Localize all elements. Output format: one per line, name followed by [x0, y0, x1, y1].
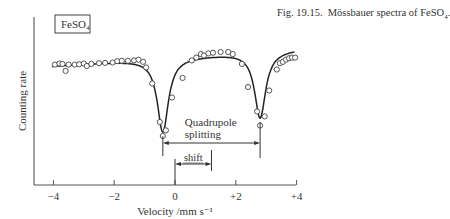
data-point: [60, 61, 65, 66]
data-point: [89, 61, 94, 66]
data-point: [194, 55, 199, 60]
data-point: [144, 65, 149, 70]
data-point: [230, 52, 235, 57]
x-tick-label: 0: [172, 190, 178, 202]
data-point: [218, 49, 223, 54]
data-point: [262, 114, 267, 119]
x-tick-label: −4: [48, 190, 60, 202]
data-point: [293, 55, 298, 60]
sample-label: FeSO4: [61, 18, 90, 32]
data-point: [103, 60, 108, 65]
data-point: [255, 109, 260, 114]
shift-label: shift: [184, 152, 203, 163]
data-point: [125, 58, 130, 63]
data-point: [163, 128, 168, 133]
data-point: [157, 119, 162, 124]
data-point: [274, 67, 279, 72]
data-point: [66, 62, 71, 67]
quadrupole-splitting-arrow: [163, 141, 260, 145]
data-point: [169, 95, 174, 100]
sample-label-box: FeSO4: [55, 15, 90, 33]
y-axis-label: Counting rate: [16, 71, 28, 131]
data-point: [119, 58, 124, 63]
data-point: [96, 61, 101, 66]
x-tick-label: +4: [291, 190, 303, 202]
data-point: [210, 50, 215, 55]
data-point: [267, 88, 272, 93]
x-axis-label: Velocity /mm s⁻¹: [137, 205, 213, 217]
data-point: [141, 59, 146, 64]
data-point: [245, 84, 250, 89]
data-points: [52, 49, 297, 138]
data-point: [239, 61, 244, 66]
quadrupole-label: Quadrupole: [185, 116, 237, 128]
data-point: [150, 81, 155, 86]
x-tick-label: −2: [108, 190, 120, 202]
data-point: [180, 75, 185, 80]
data-point: [63, 68, 68, 73]
x-tick-label: +2: [230, 190, 242, 202]
splitting-label: splitting: [185, 128, 222, 140]
annotations: Quadrupolesplittingshift: [163, 116, 260, 185]
